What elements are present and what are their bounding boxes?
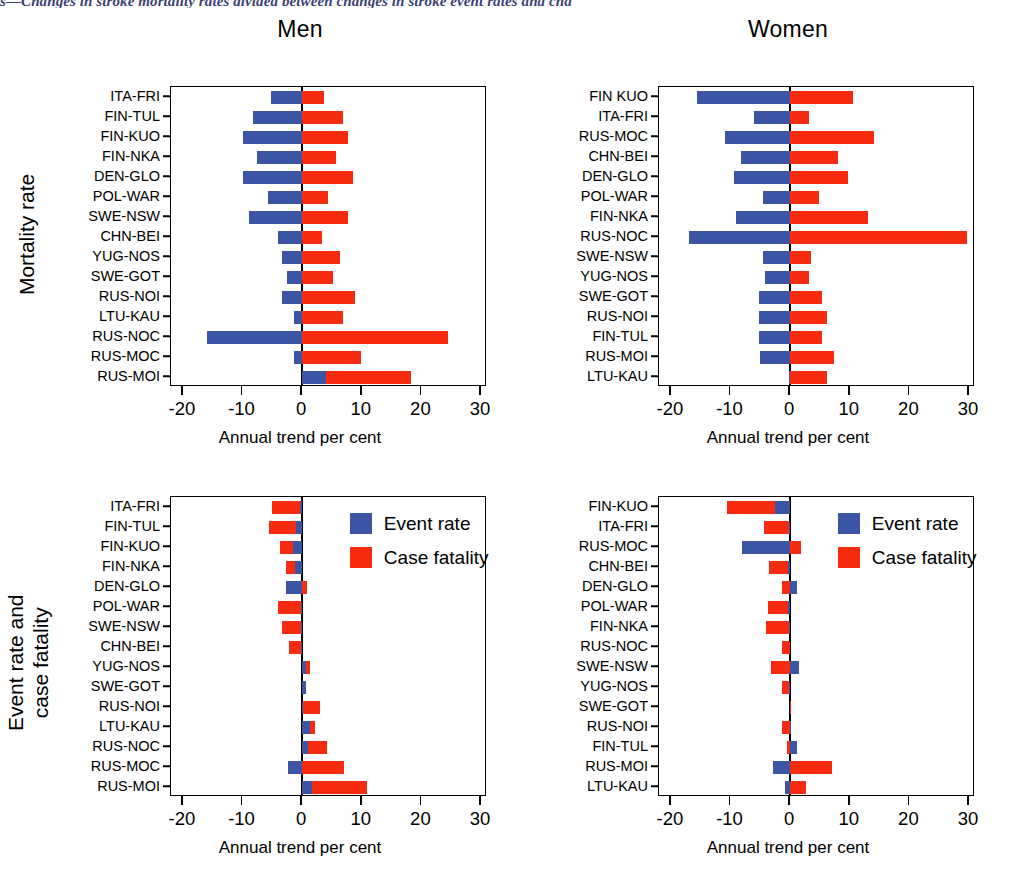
bar-row [171,641,485,654]
y-axis-label: FIN-NKA [102,559,160,574]
x-axis-title: Annual trend per cent [56,428,544,448]
y-axis-label: YUG-NOS [92,249,160,264]
bar-row [659,581,973,594]
bar-row [659,501,973,514]
legend-item-event-rate[interactable]: Event rate [838,513,959,534]
y-axis-label: YUG-NOS [92,659,160,674]
y-axis-tick [163,235,170,237]
bar-segment-event-rate [790,721,791,734]
x-axis-tick-label: 0 [296,808,306,830]
bar-segment-event-rate [734,171,791,184]
bar-segment-case-fatality [302,211,348,224]
x-axis-tick [420,386,422,395]
x-axis-tick-label: 30 [958,398,979,420]
y-axis-tick [651,335,658,337]
bar-row [171,601,485,614]
y-axis-label: SWE-GOT [579,699,648,714]
y-axis-tick [163,545,170,547]
legend-item-case-fatality[interactable]: Case fatality [838,547,977,568]
bar-row [659,721,973,734]
bar-segment-event-rate [302,371,326,384]
bar-row [659,191,973,204]
bar-segment-case-fatality [790,761,832,774]
y-axis-label: POL-WAR [581,599,648,614]
y-axis-label: RUS-MOC [91,759,160,774]
x-axis-tick [300,386,302,395]
panel-title-men: Men [56,16,544,43]
bar-segment-event-rate [302,701,303,714]
bar-segment-event-rate [288,761,302,774]
y-axis-tick [651,605,658,607]
bar-segment-case-fatality [768,601,791,614]
bar-segment-event-rate [773,761,790,774]
y-axis-tick [163,785,170,787]
y-axis-label: ITA-FRI [598,109,648,124]
row-label-text: Mortality rate [16,173,39,294]
bar-segment-event-rate [243,131,302,144]
y-axis-tick [651,565,658,567]
bar-segment-event-rate [759,291,791,304]
y-axis-label: RUS-MOC [579,129,648,144]
x-axis-tick-label: 10 [350,808,371,830]
bar-row [171,91,485,104]
x-axis-tick [908,796,910,805]
bar-segment-case-fatality [302,761,344,774]
x-axis-tick-label: 20 [898,808,919,830]
legend-item-case-fatality[interactable]: Case fatality [350,547,489,568]
figure-caption: s—Changes in stroke mortality rates divi… [0,0,1032,8]
bar-segment-case-fatality [302,151,336,164]
bar-segment-case-fatality [302,91,323,104]
panel-eventrate-casefatality-men: Event rateCase fatalityITA-FRIFIN-TULFIN… [56,454,544,871]
bar-segment-event-rate [790,581,797,594]
y-axis-tick [651,115,658,117]
y-axis-label: YUG-NOS [580,269,648,284]
y-axis-tick [651,545,658,547]
y-axis-tick [163,685,170,687]
plot-area-mortality-women [658,86,974,386]
y-axis-tick [163,705,170,707]
bar-segment-event-rate [789,621,790,634]
bar-segment-case-fatality [302,781,366,794]
y-axis-tick [651,135,658,137]
y-axis-tick [163,765,170,767]
y-axis-label: FIN-NKA [102,149,160,164]
x-axis-tick [479,796,481,805]
x-axis-title: Annual trend per cent [544,838,1032,858]
y-axis-tick [163,585,170,587]
bar-segment-case-fatality [302,231,322,244]
bar-segment-case-fatality [790,311,826,324]
x-axis-tick-label: 10 [838,398,859,420]
bar-segment-event-rate [287,271,302,284]
bar-segment-event-rate [789,681,790,694]
legend-item-label: Event rate [872,514,959,533]
y-axis-tick [163,135,170,137]
y-axis-label: ITA-FRI [598,519,648,534]
bar-segment-event-rate [257,151,302,164]
x-axis-tick-label: 0 [784,398,794,420]
bar-row [171,351,485,364]
y-axis-tick [651,355,658,357]
y-axis-label: SWE-NSW [88,619,160,634]
bar-segment-case-fatality [769,561,790,574]
row-label-text-line1: Event rate and [3,594,28,731]
y-axis-label: FIN KUO [589,89,648,104]
y-axis-tick [163,625,170,627]
bar-segment-event-rate [689,231,790,244]
y-axis-label: CHN-BEI [588,559,648,574]
bar-row [171,681,485,694]
bar-segment-case-fatality [302,251,340,264]
x-axis-tick [181,386,183,395]
bar-segment-event-rate [788,561,790,574]
x-axis-tick [848,796,850,805]
y-axis-label: SWE-NSW [576,659,648,674]
legend-item-event-rate[interactable]: Event rate [350,513,471,534]
x-axis-tick-label: -10 [228,808,255,830]
bar-segment-event-rate [207,331,302,344]
bar-segment-case-fatality [790,351,834,364]
y-axis-label: LTU-KAU [587,369,648,384]
y-axis-tick [651,275,658,277]
bar-segment-event-rate [302,661,306,674]
y-axis-label: FIN-TUL [592,739,648,754]
bar-segment-event-rate [268,191,303,204]
y-axis-tick [651,235,658,237]
